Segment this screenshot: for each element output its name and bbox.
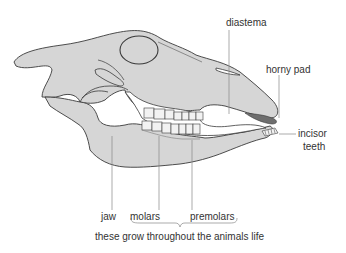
label-teeth: teeth [303,141,325,153]
label-molars: molars [130,211,160,223]
label-horny-pad: horny pad [266,64,310,76]
skull-diagram [0,0,346,253]
caption: these grow throughout the animals life [95,231,264,243]
eye-orbit [120,36,158,64]
label-jaw: jaw [101,211,116,223]
label-incisor: incisor [298,128,327,140]
label-diastema: diastema [226,17,267,29]
label-premolars: premolars [190,211,234,223]
